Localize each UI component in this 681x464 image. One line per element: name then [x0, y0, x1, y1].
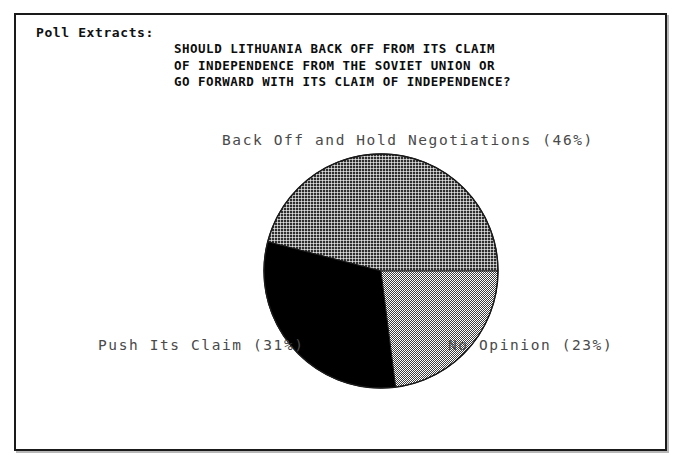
document-frame: Poll Extracts: SHOULD LITHUANIA BACK OFF…	[14, 13, 667, 451]
pie-label-push-claim: Push Its Claim (31%)	[98, 337, 305, 353]
pie-label-no-opinion: No Opinion (23%)	[448, 337, 613, 353]
pie-label-back-off: Back Off and Hold Negotiations (46%)	[222, 132, 594, 148]
pie-chart: Back Off and Hold Negotiations (46%) Pus…	[16, 15, 669, 453]
pie-chart-svg	[16, 15, 669, 453]
pie-slice-no-opinion	[381, 271, 498, 387]
